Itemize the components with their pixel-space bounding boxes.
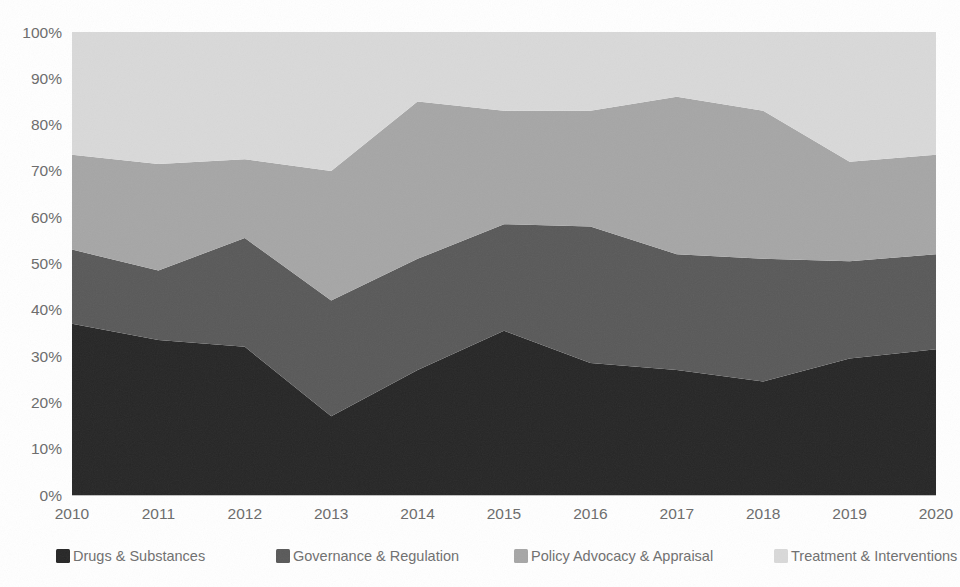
y-tick-70: 70% <box>31 162 62 179</box>
legend-item-treatment-interventions[interactable]: Treatment & Interventions <box>774 548 957 564</box>
legend-label: Policy Advocacy & Appraisal <box>531 548 713 564</box>
x-tick-2010: 2010 <box>55 505 90 522</box>
y-tick-20: 20% <box>31 394 62 411</box>
x-tick-2020: 2020 <box>919 505 954 522</box>
x-tick-2017: 2017 <box>660 505 694 522</box>
y-tick-0: 0% <box>40 487 63 504</box>
y-tick-40: 40% <box>31 301 62 318</box>
legend-label: Treatment & Interventions <box>791 548 957 564</box>
x-tick-2019: 2019 <box>832 505 866 522</box>
x-tick-2013: 2013 <box>314 505 348 522</box>
x-tick-2018: 2018 <box>746 505 780 522</box>
stacked-area-chart: 100%90%80%70%60%50%40%30%20%10%0% 201020… <box>0 0 960 587</box>
series-area-layers <box>72 32 936 495</box>
x-tick-2016: 2016 <box>573 505 607 522</box>
y-tick-90: 90% <box>31 70 62 87</box>
legend-item-policy-advocacy-appraisal[interactable]: Policy Advocacy & Appraisal <box>514 548 713 564</box>
legend-label: Governance & Regulation <box>293 548 459 564</box>
legend-swatch-icon <box>774 549 788 563</box>
y-tick-10: 10% <box>31 440 62 457</box>
legend-item-drugs-substances[interactable]: Drugs & Substances <box>56 548 205 564</box>
y-tick-100: 100% <box>22 24 62 41</box>
legend-swatch-icon <box>276 549 290 563</box>
chart-canvas: 100%90%80%70%60%50%40%30%20%10%0% 201020… <box>0 0 960 587</box>
x-tick-2011: 2011 <box>142 505 175 522</box>
legend-item-governance-regulation[interactable]: Governance & Regulation <box>276 548 459 564</box>
legend-label: Drugs & Substances <box>73 548 205 564</box>
y-tick-50: 50% <box>31 255 62 272</box>
x-tick-2014: 2014 <box>400 505 435 522</box>
legend-swatch-icon <box>514 549 528 563</box>
x-tick-2015: 2015 <box>487 505 521 522</box>
legend-swatch-icon <box>56 549 70 563</box>
y-tick-60: 60% <box>31 209 62 226</box>
y-tick-80: 80% <box>31 116 62 133</box>
x-tick-2012: 2012 <box>228 505 262 522</box>
y-tick-30: 30% <box>31 348 62 365</box>
